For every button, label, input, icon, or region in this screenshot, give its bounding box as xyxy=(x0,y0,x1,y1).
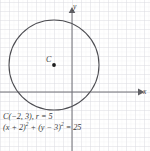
equation-annotation: C(−2, 3), r = 5 (x + 2)2 + (y − 3)2 = 25 xyxy=(3,113,123,132)
x-axis-label: x xyxy=(143,87,146,96)
center-point-label: C xyxy=(46,55,51,64)
equation-part-2: + (y − 3) xyxy=(29,123,61,132)
circle-equation-text: (x + 2)2 + (y − 3)2 = 25 xyxy=(3,122,123,133)
y-axis-label: y xyxy=(73,2,76,11)
equation-part-1: (x + 2) xyxy=(3,123,26,132)
center-point-marker xyxy=(52,63,56,67)
figure-canvas: y x C C(−2, 3), r = 5 (x + 2)2 + (y − 3)… xyxy=(0,0,150,151)
equation-part-3: = 25 xyxy=(64,123,82,132)
